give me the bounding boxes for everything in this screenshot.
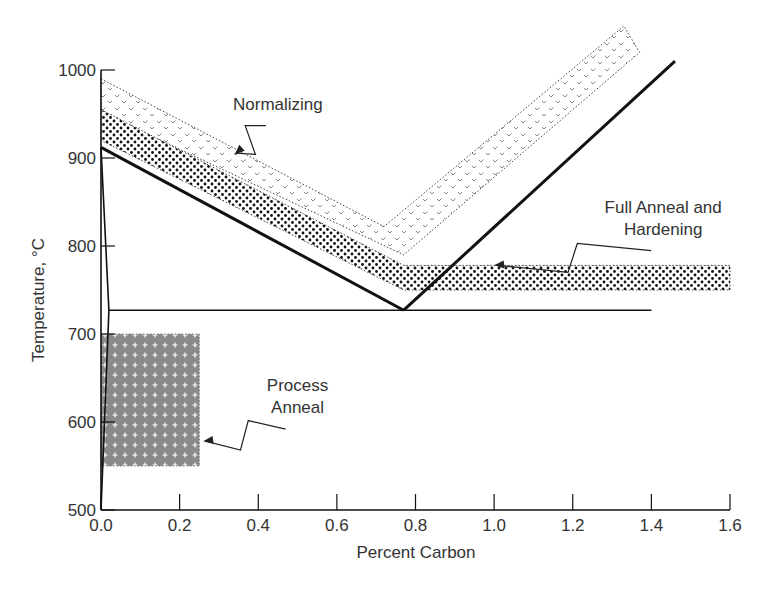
y-tick-label: 700 (68, 325, 96, 344)
x-tick-label: 1.2 (561, 516, 585, 535)
region-process-anneal (101, 334, 199, 466)
annotation-label: Normalizing (233, 95, 323, 114)
arrowhead-icon (203, 436, 213, 444)
annotation-arrow (205, 421, 285, 450)
x-tick-label: 1.4 (640, 516, 664, 535)
x-tick-label: 0.4 (246, 516, 270, 535)
x-tick-label: 0.2 (168, 516, 192, 535)
x-tick-label: 1.6 (718, 516, 742, 535)
x-tick-label: 1.0 (482, 516, 506, 535)
annotation-full-anneal-and-hardening: Full Anneal andHardening (494, 198, 722, 273)
iron-carbon-heat-treatment-chart: Percent Carbon Temperature, °C 0.00.20.4… (0, 0, 776, 593)
y-tick-label: 600 (68, 413, 96, 432)
y-axis-title: Temperature, °C (29, 238, 48, 362)
y-tick-label: 900 (68, 149, 96, 168)
y-tick-label: 500 (68, 501, 96, 520)
y-tick-label: 1000 (58, 61, 96, 80)
annotation-normalizing: Normalizing (233, 95, 323, 155)
annotation-label: Full Anneal and (605, 198, 722, 217)
y-tick-label: 800 (68, 237, 96, 256)
x-tick-label: 0.6 (325, 516, 349, 535)
x-tick-label: 0.8 (404, 516, 428, 535)
annotation-label: Hardening (624, 220, 702, 239)
annotation-label: Process (267, 376, 328, 395)
annotation-label: Anneal (271, 398, 324, 417)
region-normalizing (101, 26, 640, 255)
annotation-process-anneal: ProcessAnneal (203, 376, 328, 450)
x-axis-title: Percent Carbon (356, 543, 475, 562)
